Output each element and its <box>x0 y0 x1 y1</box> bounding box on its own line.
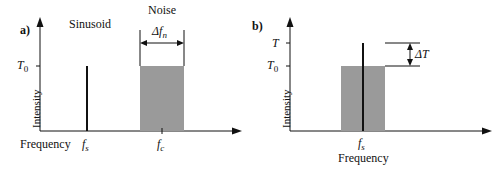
panel-a-noise-block <box>140 66 184 131</box>
panel-b-delta-t-label: ΔT <box>415 48 429 60</box>
fs-subscript: s <box>85 143 89 153</box>
bandwidth-symbol: Δf <box>152 24 162 38</box>
t-symbol: T <box>17 58 24 72</box>
panel-b-delta-arrow-up-icon <box>407 43 413 50</box>
panel-b-x-axis-arrow-icon <box>482 128 492 135</box>
panel-a-fs-label: fs <box>82 138 89 150</box>
panel-b-t-label: T <box>272 37 279 49</box>
panel-b-y-axis-label: Intensity <box>281 90 292 129</box>
panel-a-bandwidth-label: Δfn <box>152 25 167 37</box>
panel-a-x-axis-arrow-icon <box>232 128 242 135</box>
panel-a-bandwidth-arrow-right-icon <box>177 40 184 46</box>
panel-b-t0-label: T0 <box>267 59 278 71</box>
panel-b-label: b) <box>252 20 263 32</box>
panel-a-y-axis-label: Intensity <box>31 90 42 129</box>
panel-b <box>286 17 492 135</box>
panel-b-delta-arrow-down-icon <box>407 59 413 66</box>
panel-a-x-axis-label: Frequency <box>20 138 71 150</box>
panel-a-label: a) <box>20 24 30 36</box>
t0-symbol: T <box>267 58 274 72</box>
fc-subscript: c <box>160 143 164 153</box>
panel-b-x-axis-label: Frequency <box>338 152 389 164</box>
t0-subscript: 0 <box>274 64 279 74</box>
t-subscript: 0 <box>24 64 29 74</box>
panel-a-noise-label: Noise <box>148 4 176 16</box>
panel-a-y-axis-arrow-icon <box>37 17 44 27</box>
panel-b-y-axis-arrow-icon <box>287 17 294 27</box>
panel-b-fs-label: fs <box>358 137 365 149</box>
panel-a-bandwidth-arrow-left-icon <box>140 40 147 46</box>
bandwidth-subscript: n <box>162 30 167 40</box>
panel-a <box>36 17 242 135</box>
panel-a-t0-label: T0 <box>17 59 28 71</box>
panel-a-fc-label: fc <box>157 138 164 150</box>
panel-a-sinusoid-label: Sinusoid <box>69 18 111 30</box>
